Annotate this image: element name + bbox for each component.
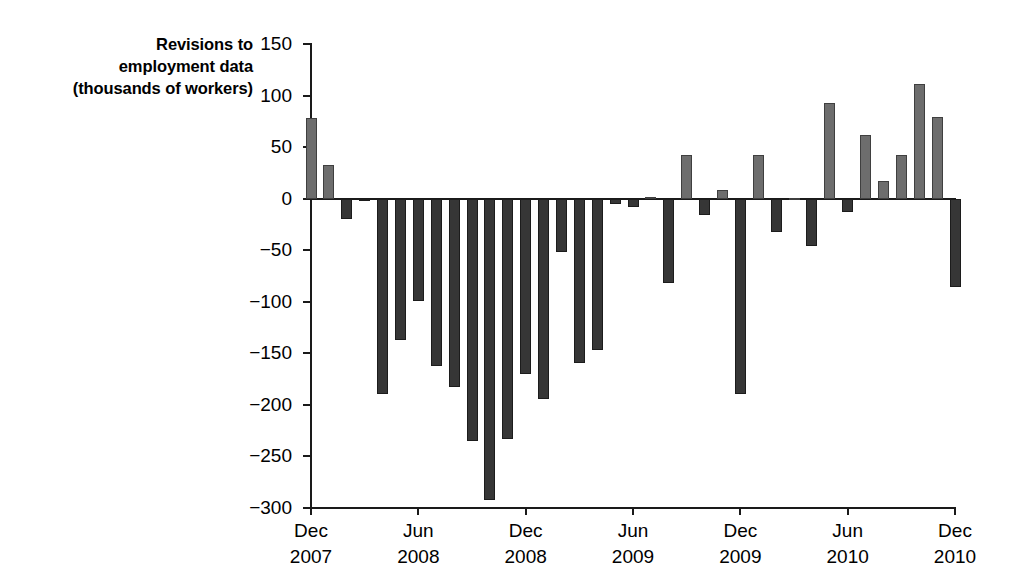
bar [395,199,406,340]
x-axis-tick-label: Dec2008 [471,518,581,570]
y-axis-title-line-3: (thousands of workers) [8,77,253,99]
bar [860,135,871,199]
x-axis-tick-month: Dec [685,518,795,544]
bar [306,118,317,198]
x-axis-tick-month: Jun [363,518,473,544]
y-axis-title-line-1: Revisions to [8,33,253,55]
bar [574,199,585,363]
x-axis-tick [847,507,849,515]
x-axis-tick [417,507,419,515]
x-axis-tick-month: Dec [256,518,366,544]
bar [914,84,925,198]
y-axis-title-line-2: employment data [8,55,253,77]
x-axis-tick-year: 2007 [256,544,366,570]
y-axis-tick [303,455,312,457]
bar [699,199,710,215]
bar [341,199,352,220]
bar [717,190,728,198]
y-axis-line [310,44,312,509]
bar [538,199,549,399]
x-axis-tick-label: Jun2008 [363,518,473,570]
bar [592,199,603,351]
x-axis-tick-year: 2009 [685,544,795,570]
x-axis-tick-year: 2010 [793,544,903,570]
y-axis-tick-label: 50 [232,137,292,156]
x-axis-tick-label: Dec2010 [900,518,1010,570]
bar [842,199,853,212]
x-axis-tick [632,507,634,515]
bar [806,199,817,246]
y-axis-tick [303,352,312,354]
bar [663,199,674,284]
bar [502,199,513,439]
x-axis-tick [954,507,956,515]
x-axis-tick-label: Jun2009 [578,518,688,570]
bar [735,199,746,394]
bar [896,155,907,198]
bar [932,117,943,198]
x-axis-tick-year: 2008 [363,544,473,570]
revisions-to-employment-data-bar-chart: Revisions to employment data (thousands … [0,0,1027,584]
x-axis-tick-label: Dec2007 [256,518,366,570]
bar [377,199,388,394]
x-axis-tick-month: Jun [578,518,688,544]
bar [771,199,782,232]
y-axis-tick-label: −150 [232,343,292,362]
x-axis-tick-label: Jun2010 [793,518,903,570]
bar [681,155,692,198]
bar [645,197,656,199]
y-axis-tick-label: −250 [232,446,292,465]
x-axis-tick-year: 2010 [900,544,1010,570]
bar [556,199,567,253]
bar [610,199,621,204]
bar [520,199,531,374]
y-axis-tick [303,95,312,97]
y-axis-tick [303,301,312,303]
x-axis-tick [525,507,527,515]
x-axis-tick-year: 2009 [578,544,688,570]
y-axis-tick [303,249,312,251]
y-axis-tick-label: 0 [232,189,292,208]
bar [878,181,889,199]
bar [323,165,334,199]
bar [789,198,800,200]
bar [753,155,764,198]
y-axis-tick [303,404,312,406]
bar [950,199,961,288]
y-axis-tick-label: 150 [232,34,292,53]
y-axis-tick-label: 100 [232,86,292,105]
x-axis-tick-month: Jun [793,518,903,544]
x-axis-tick [310,507,312,515]
x-axis-tick-month: Dec [900,518,1010,544]
x-axis-tick-label: Dec2009 [685,518,795,570]
bar [628,199,639,207]
bar [824,103,835,199]
bar [413,199,424,301]
bar [431,199,442,366]
y-axis-tick-label: −100 [232,292,292,311]
y-axis-title: Revisions to employment data (thousands … [8,33,253,99]
x-axis-tick [739,507,741,515]
bar [359,199,370,201]
x-axis-tick-year: 2008 [471,544,581,570]
y-axis-tick-label: −300 [232,498,292,517]
y-axis-tick-label: −50 [232,240,292,259]
y-axis-tick-label: −200 [232,395,292,414]
x-axis-tick-month: Dec [471,518,581,544]
bar [449,199,460,388]
bar [467,199,478,441]
bar [484,199,495,500]
y-axis-tick [303,43,312,45]
